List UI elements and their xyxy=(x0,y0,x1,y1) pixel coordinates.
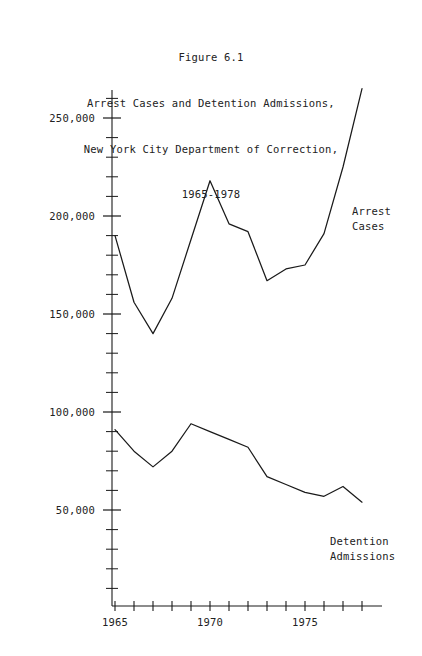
series-label-arrest-cases: Arrest xyxy=(352,205,391,217)
x-axis-tick-label: 1970 xyxy=(197,616,223,628)
y-axis-tick-label: 200,000 xyxy=(49,210,95,222)
x-axis-tick-label: 1965 xyxy=(102,616,128,628)
line-chart-plot: 50,000100,000150,000200,000250,000 19651… xyxy=(0,0,422,656)
y-axis-tick-label: 150,000 xyxy=(49,308,95,320)
y-axis-tick-label: 250,000 xyxy=(49,112,95,124)
series-line-arrest-cases xyxy=(115,89,362,334)
series-line-detention-admissions xyxy=(115,424,362,502)
y-axis-tick-label: 50,000 xyxy=(56,504,95,516)
data-series-group xyxy=(115,89,362,503)
series-label-detention-admissions: Detention xyxy=(330,535,389,547)
x-axis-tick-label: 1975 xyxy=(292,616,318,628)
figure-container: Figure 6.1 Arrest Cases and Detention Ad… xyxy=(0,0,422,656)
series-label-group: ArrestCasesDetentionAdmissions xyxy=(330,205,395,562)
series-label-detention-admissions: Admissions xyxy=(330,550,395,562)
y-axis-tick-label: 100,000 xyxy=(49,406,95,418)
x-axis: 196519701975 xyxy=(102,601,382,628)
y-axis: 50,000100,000150,000200,000250,000 xyxy=(49,90,121,606)
series-label-arrest-cases: Cases xyxy=(352,220,385,232)
